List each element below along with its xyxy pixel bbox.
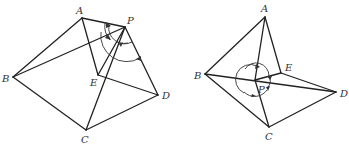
geometry-diagram: A P B E D C A B E D P C — [0, 0, 349, 151]
arrow-head-r2 — [267, 76, 272, 80]
label-P-left: P — [126, 15, 134, 26]
figure-right: A B E D P C — [193, 3, 348, 142]
label-E-left: E — [89, 77, 98, 88]
segment-AE-r — [265, 17, 281, 73]
segment-BC — [13, 77, 86, 130]
segment-AP-r — [255, 17, 265, 80]
segment-AB — [13, 18, 82, 77]
label-B-left: B — [1, 73, 9, 84]
label-P-right: P — [257, 84, 265, 95]
label-D-right: D — [339, 88, 348, 99]
segment-AE — [82, 18, 98, 75]
segment-ED-r — [281, 73, 336, 92]
segment-ED — [98, 75, 158, 95]
label-C-right: C — [265, 131, 273, 142]
segment-AP — [82, 18, 125, 27]
label-A-left: A — [75, 5, 83, 16]
segment-CD-r — [269, 92, 336, 127]
label-E-right: E — [284, 62, 293, 73]
figure-left: A P B E D C — [1, 5, 170, 145]
label-B-right: B — [193, 70, 201, 81]
label-C-left: C — [81, 134, 89, 145]
label-D-left: D — [161, 90, 170, 101]
segment-PE — [98, 27, 125, 75]
arrow-head-3 — [136, 56, 141, 61]
label-A-right: A — [260, 3, 268, 14]
